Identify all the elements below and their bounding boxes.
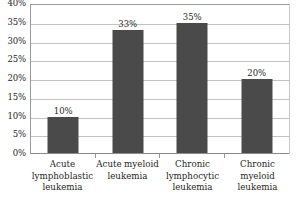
x-axis-tick <box>159 154 160 158</box>
bar-value-label: 35% <box>183 12 202 22</box>
x-axis-tick <box>224 154 225 158</box>
bar[interactable] <box>241 79 272 154</box>
bar[interactable] <box>48 117 79 155</box>
bar-value-label: 20% <box>247 68 266 78</box>
bar-slot: 20% <box>225 5 290 154</box>
y-axis-tick-label: 0% <box>0 149 26 158</box>
y-axis-tick-label: 5% <box>0 130 26 139</box>
bar[interactable] <box>112 30 143 154</box>
category-axis-labels: Acute lymphoblastic leukemiaAcute myeloi… <box>30 159 290 194</box>
bar-value-label: 10% <box>54 106 73 116</box>
y-axis-tick-label: 35% <box>0 18 26 27</box>
category-label: Acute myeloid leukemia <box>95 159 160 194</box>
y-axis-tick-label: 30% <box>0 37 26 46</box>
y-axis-tick-label: 10% <box>0 112 26 121</box>
plot-area: 10%33%35%20% <box>30 4 290 154</box>
category-label: Chronic myeloid leukemia <box>225 159 290 194</box>
y-axis-tick-label: 20% <box>0 74 26 83</box>
bar-value-label: 33% <box>118 19 137 29</box>
category-label: Chronic lymphocytic leukemia <box>160 159 225 194</box>
y-axis-tick-label: 40% <box>0 0 26 8</box>
bar[interactable] <box>177 23 208 154</box>
y-axis-tick-label: 25% <box>0 55 26 64</box>
category-label: Acute lymphoblastic leukemia <box>30 159 95 194</box>
bar-slot: 10% <box>31 5 96 154</box>
bar-chart: 40%35%30%25%20%15%10%5%0% 10%33%35%20% A… <box>0 0 299 202</box>
bar-slot: 33% <box>96 5 161 154</box>
bar-slot: 35% <box>160 5 225 154</box>
x-axis-tick <box>95 154 96 158</box>
y-axis-tick-label: 15% <box>0 93 26 102</box>
y-axis: 40%35%30%25%20%15%10%5%0% <box>0 0 28 202</box>
bars-layer: 10%33%35%20% <box>31 5 289 154</box>
x-axis-line <box>31 153 289 154</box>
